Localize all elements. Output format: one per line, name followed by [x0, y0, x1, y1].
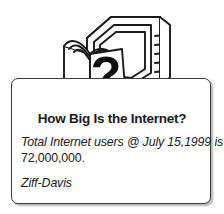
statistic-text: Total Internet users @ July 15,1999 is 7…: [21, 134, 207, 166]
source-attribution: Ziff-Davis: [21, 176, 72, 190]
internet-stat-card: ? How Big Is the Internet? Total Interne…: [0, 0, 224, 214]
page-title: How Big Is the Internet?: [12, 111, 212, 126]
statistic-line-1: Total Internet users @ July 15,1999 is: [21, 134, 207, 150]
statistic-line-2: 72,000,000.: [21, 150, 207, 166]
info-box: How Big Is the Internet? Total Internet …: [11, 78, 211, 204]
